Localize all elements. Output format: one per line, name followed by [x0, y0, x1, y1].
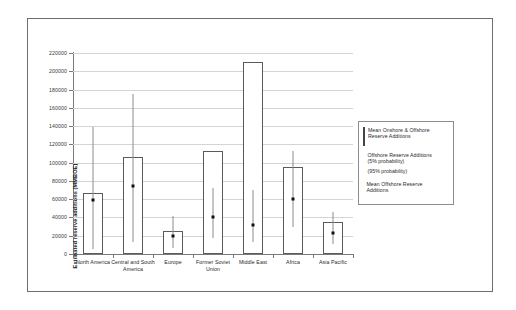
filled-square-icon: [363, 181, 364, 199]
x-tick-mark: [273, 254, 274, 258]
x-axis-line: [73, 254, 354, 255]
y-tick-label: 200000: [49, 68, 67, 74]
mean-marker: [172, 234, 175, 237]
chart-category-group: North America: [73, 53, 113, 254]
error-bar: [213, 188, 214, 237]
error-bar: [333, 212, 334, 244]
error-bar: [253, 190, 254, 242]
open-square-icon: [363, 128, 365, 146]
y-tick-label: 140000: [49, 123, 67, 129]
y-tick-label: 0: [64, 251, 67, 257]
mean-marker: [292, 198, 295, 201]
x-tick-mark: [193, 254, 194, 258]
error-bar: [93, 127, 94, 249]
mean-marker: [92, 199, 95, 202]
y-tick-label: 220000: [49, 50, 67, 56]
mean-marker: [332, 232, 335, 235]
chart-plot-area: 0200004000060000800001000001200001400001…: [73, 53, 353, 254]
mean-marker: [132, 184, 135, 187]
y-tick-label: 100000: [49, 160, 67, 166]
x-tick-mark: [113, 254, 114, 258]
legend-item-mean-onshore-offshore: Mean Onshore & Offshore Reserve Addition…: [363, 127, 449, 146]
legend-item-label: Mean Offshore Reserve Additions: [367, 181, 423, 194]
chart-category-group: Europe: [153, 53, 193, 254]
chart-legend: Mean Onshore & Offshore Reserve Addition…: [358, 121, 454, 205]
legend-item-offshore-probability-range: Offshore Reserve Additions (5% probabili…: [363, 152, 449, 175]
y-tick-label: 180000: [49, 87, 67, 93]
y-tick-label: 120000: [49, 141, 67, 147]
chart-category-group: Middle East: [233, 53, 273, 254]
y-tick-label: 20000: [52, 233, 67, 239]
x-tick-mark: [153, 254, 154, 258]
error-bar: [173, 216, 174, 248]
mean-marker: [212, 215, 215, 218]
legend-item-mean-offshore: Mean Offshore Reserve Additions: [363, 181, 449, 200]
y-tick-label: 40000: [52, 214, 67, 220]
error-bar: [293, 151, 294, 227]
chart-category-group: Central and South America: [113, 53, 153, 254]
error-bar: [133, 94, 134, 242]
x-tick-mark: [233, 254, 234, 258]
mean-marker: [252, 224, 255, 227]
y-tick-label: 80000: [52, 178, 67, 184]
legend-item-label: Mean Onshore & Offshore Reserve Addition…: [368, 127, 430, 140]
y-axis-title: Estimated reserve additions (MMBOE): [72, 141, 78, 291]
chart-category-group: Africa: [273, 53, 313, 254]
chart-category-group: Former Soviet Union: [193, 53, 233, 254]
y-tick-label: 160000: [49, 105, 67, 111]
x-tick-mark: [313, 254, 314, 258]
chart-category-group: Asia Pacific: [313, 53, 353, 254]
vertical-line-icon: [363, 152, 365, 170]
x-tick-mark: [353, 254, 354, 258]
chart-page-frame: 0200004000060000800001000001200001400001…: [27, 18, 493, 292]
y-tick-label: 60000: [52, 196, 67, 202]
x-axis-category-label: Asia Pacific: [310, 259, 356, 266]
legend-item-label: Offshore Reserve Additions (5% probabili…: [368, 152, 432, 175]
